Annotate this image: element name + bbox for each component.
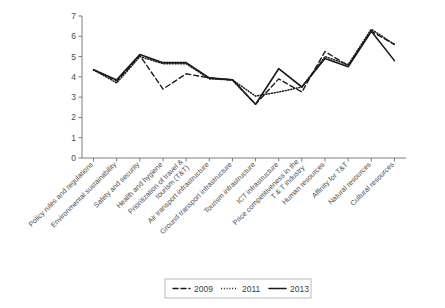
series-line-2011 (94, 29, 395, 96)
series-line-2013 (94, 31, 395, 104)
category-label: Cultural resources (348, 160, 396, 208)
chart-svg: 01234567 Policy rules and regulationsEnv… (0, 0, 445, 308)
y-tick-label: 0 (71, 153, 76, 163)
y-tick-label: 5 (71, 52, 76, 62)
category-labels: Policy rules and regulationsEnvironmenta… (26, 157, 396, 236)
svg-text:Cultural resources: Cultural resources (348, 160, 396, 208)
y-tick-label: 1 (71, 133, 76, 143)
y-tick-label: 3 (71, 92, 76, 102)
y-tick-label: 4 (71, 72, 76, 82)
legend-label: 2009 (194, 284, 213, 294)
y-tick-label: 6 (71, 31, 76, 41)
x-axis (82, 158, 406, 162)
legend-label: 2013 (290, 284, 309, 294)
legend-label: 2011 (242, 284, 261, 294)
y-axis: 01234567 (71, 11, 82, 163)
chart-legend: 200920112013 (165, 279, 311, 298)
y-tick-label: 7 (71, 11, 76, 21)
line-chart: 01234567 Policy rules and regulationsEnv… (0, 0, 445, 308)
series-line-2009 (94, 31, 395, 104)
series-layer (94, 29, 395, 104)
y-tick-label: 2 (71, 112, 76, 122)
